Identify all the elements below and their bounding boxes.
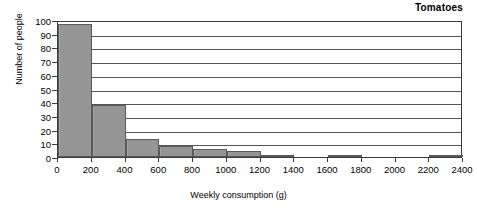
bar bbox=[92, 105, 126, 157]
x-axis-tick-mark bbox=[158, 158, 159, 162]
bar bbox=[429, 155, 463, 157]
chart-screenshot: Tomatoes Number of people 01020304050607… bbox=[0, 0, 477, 210]
y-axis-tick-labels: 0102030405060708090100 bbox=[0, 0, 57, 210]
x-axis-tick-label: 1400 bbox=[283, 164, 304, 175]
x-axis-tick-mark bbox=[192, 158, 193, 162]
x-axis-tick-mark bbox=[327, 158, 328, 162]
x-axis-tick-label: 2200 bbox=[418, 164, 439, 175]
x-axis-tick-label: 600 bbox=[150, 164, 166, 175]
x-axis-tick-mark bbox=[293, 158, 294, 162]
x-axis-tick-labels: 0200400600800100012001400160018002000220… bbox=[57, 158, 462, 190]
x-axis-tick-mark bbox=[260, 158, 261, 162]
y-axis-tick-label: 10 bbox=[40, 139, 51, 150]
plot-area bbox=[57, 21, 462, 158]
y-axis-tick-label: 80 bbox=[40, 43, 51, 54]
y-axis-tick-label: 50 bbox=[40, 84, 51, 95]
x-axis-tick-mark bbox=[462, 158, 463, 162]
bar bbox=[58, 24, 92, 157]
y-axis-tick-label: 40 bbox=[40, 98, 51, 109]
x-axis-tick-mark bbox=[395, 158, 396, 162]
y-axis-tick-label: 90 bbox=[40, 29, 51, 40]
x-axis-tick-mark bbox=[125, 158, 126, 162]
x-axis-tick-label: 800 bbox=[184, 164, 200, 175]
x-axis-tick-mark bbox=[57, 158, 58, 162]
y-axis-tick-label: 60 bbox=[40, 70, 51, 81]
y-axis-tick-label: 30 bbox=[40, 111, 51, 122]
chart-title: Tomatoes bbox=[415, 2, 463, 13]
y-axis-tick-label: 20 bbox=[40, 125, 51, 136]
bar bbox=[159, 146, 193, 157]
y-axis-tick-label: 0 bbox=[46, 153, 51, 164]
x-axis-tick-label: 1800 bbox=[350, 164, 371, 175]
bar-series bbox=[58, 22, 461, 157]
x-axis-tick-label: 1000 bbox=[215, 164, 236, 175]
x-axis-tick-mark bbox=[428, 158, 429, 162]
bar bbox=[126, 139, 160, 157]
bar bbox=[328, 155, 362, 157]
x-axis-tick-mark bbox=[361, 158, 362, 162]
x-axis-tick-label: 200 bbox=[83, 164, 99, 175]
x-axis-tick-mark bbox=[226, 158, 227, 162]
bar bbox=[261, 155, 295, 157]
y-axis-tick-label: 100 bbox=[35, 16, 51, 27]
x-axis-tick-label: 2000 bbox=[384, 164, 405, 175]
y-axis-tick-label: 70 bbox=[40, 57, 51, 68]
bar bbox=[193, 149, 227, 157]
x-axis-title: Weekly consumption (g) bbox=[0, 190, 477, 200]
x-axis-tick-label: 0 bbox=[54, 164, 59, 175]
x-axis-tick-label: 2400 bbox=[451, 164, 472, 175]
x-axis-tick-mark bbox=[91, 158, 92, 162]
bar bbox=[227, 151, 261, 157]
x-axis-tick-label: 1600 bbox=[316, 164, 337, 175]
x-axis-tick-label: 1200 bbox=[249, 164, 270, 175]
x-axis-tick-label: 400 bbox=[117, 164, 133, 175]
